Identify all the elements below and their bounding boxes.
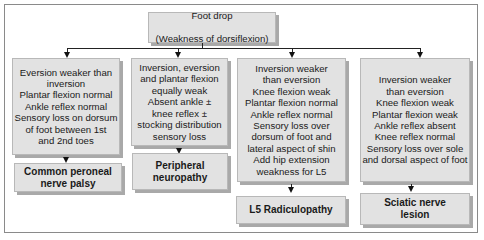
branch-1-findings-text: Eversion weaker than inversion Plantar f…: [15, 67, 118, 147]
branch-3-findings-text: Inversion weaker than eversion Knee flex…: [245, 63, 338, 177]
branch-1-diagnosis-text: Common peroneal nerve palsy: [24, 166, 112, 190]
branch-2-findings-text: Inversion, eversion and plantar flexion …: [137, 62, 221, 142]
branch-3-diagnosis-box: L5 Radiculopathy: [236, 196, 346, 224]
branch-2-findings-box: Inversion, eversion and plantar flexion …: [131, 58, 228, 146]
branch-4-findings-text: Inversion weaker than eversion Knee flex…: [362, 74, 467, 165]
branch-4-diagnosis-box: Sciatic nerve lesion: [360, 193, 470, 225]
branch-horizontal-line: [67, 48, 421, 49]
branch-4-findings-box: Inversion weaker than eversion Knee flex…: [360, 58, 470, 182]
title-box: Foot drop (Weakness of dorsiflexion): [148, 12, 276, 43]
title-line-2: (Weakness of dorsiflexion): [156, 33, 269, 44]
branch-4-result-arrow-icon: [408, 186, 414, 192]
branch-4-diagnosis-text: Sciatic nerve lesion: [384, 197, 446, 221]
branch-1-diagnosis-box: Common peroneal nerve palsy: [14, 163, 122, 192]
branch-3-findings-box: Inversion weaker than eversion Knee flex…: [237, 58, 346, 182]
branch-3-diagnosis-text: L5 Radiculopathy: [249, 204, 332, 216]
branch-3-result-arrow-icon: [288, 187, 294, 193]
branch-2-diagnosis-box: Peripheral neuropathy: [132, 153, 228, 190]
branch-1-findings-box: Eversion weaker than inversion Plantar f…: [12, 58, 120, 155]
branch-2-diagnosis-text: Peripheral neuropathy: [153, 160, 207, 184]
title-line-1: Foot drop: [156, 10, 269, 21]
